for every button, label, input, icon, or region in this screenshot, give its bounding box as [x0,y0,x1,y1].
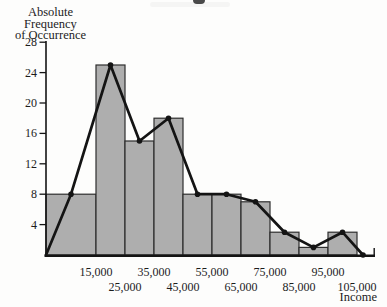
histogram-bar [241,202,270,255]
x-tick-label: 15,000 [80,265,113,279]
polygon-point [108,62,114,68]
x-tick-label: 55,000 [196,265,229,279]
polygon-point [224,191,230,197]
y-tick-label: 20 [25,96,37,110]
x-tick-label: 45,000 [167,280,200,294]
x-tick-label: 65,000 [225,280,258,294]
y-tick-label: 28 [25,35,37,49]
histogram-bar [125,141,154,255]
x-tick-label: 35,000 [138,265,171,279]
y-tick-label: 12 [25,157,37,171]
histogram-bar [154,118,183,255]
histogram-bar [46,194,96,255]
polygon-point [195,191,201,197]
y-tick-label: 16 [25,126,37,140]
y-tick-label: 8 [31,187,37,201]
histogram-chart: 48121620242815,00035,00055,00075,00095,0… [0,0,387,307]
y-tick-label: 24 [25,66,37,80]
polygon-point [68,191,74,197]
polygon-point [137,138,143,144]
y-tick-label: 4 [31,218,37,232]
histogram-bar [212,194,241,255]
histogram-bar [183,194,212,255]
histogram-bar [270,232,299,255]
x-tick-label: 25,000 [109,280,142,294]
x-tick-label: 75,000 [254,265,287,279]
x-tick-label: 95,000 [312,265,345,279]
polygon-point [253,199,259,205]
histogram-figure: Absolute Frequency of Occurrence 4812162… [0,0,387,307]
polygon-point [311,245,317,251]
polygon-point [166,115,172,121]
polygon-point [360,252,366,258]
polygon-point [340,229,346,235]
x-axis-title: Income [330,290,377,305]
x-tick-label: 85,000 [283,280,316,294]
polygon-point [282,229,288,235]
